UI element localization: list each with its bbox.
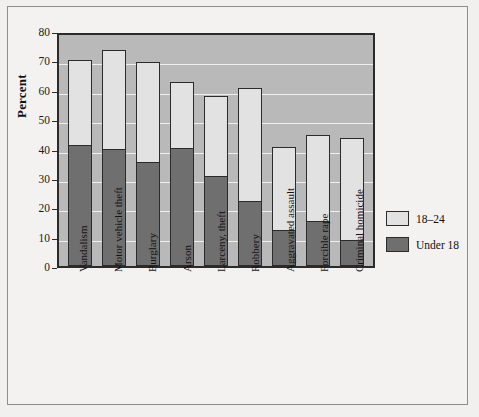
- y-tick-label: 20: [39, 204, 51, 216]
- legend-swatch: [386, 237, 409, 252]
- x-axis-label: Motor vehicle theft: [113, 187, 124, 272]
- legend-item[interactable]: Under 18: [386, 237, 472, 252]
- x-axis-label: Robbery: [250, 234, 261, 272]
- legend-swatch: [386, 211, 409, 226]
- y-tick-mark: [52, 268, 57, 269]
- x-label-slot: Forcible rape: [302, 270, 336, 382]
- x-label-slot: Burglary: [130, 270, 164, 382]
- x-axis-label: Criminal homicide: [354, 189, 365, 272]
- bar-slot: [233, 35, 267, 266]
- x-axis-label: Forcible rape: [319, 214, 330, 272]
- y-tick-label: 80: [39, 27, 51, 39]
- y-tick-label: 0: [44, 262, 50, 274]
- x-label-slot: Vandalism: [61, 270, 95, 382]
- legend-label: Under 18: [416, 239, 459, 251]
- y-tick-label: 30: [39, 174, 51, 186]
- x-axis-label: Aggravated assault: [285, 188, 296, 272]
- x-axis-label: Vandalism: [78, 226, 89, 272]
- x-label-slot: Arson: [164, 270, 198, 382]
- x-label-slot: Robbery: [233, 270, 267, 382]
- x-axis-label: Larceny, theft: [216, 211, 227, 272]
- figure: Percent 01020304050607080 VandalismMotor…: [0, 0, 479, 417]
- y-tick-label: 40: [39, 145, 51, 157]
- x-label-slot: Criminal homicide: [337, 270, 371, 382]
- y-tick-label: 60: [39, 86, 51, 98]
- legend-item[interactable]: 18–24: [386, 211, 472, 226]
- bar-slot: [165, 35, 199, 266]
- bar-arson[interactable]: [170, 82, 194, 266]
- legend: 18–24Under 18: [386, 211, 472, 263]
- bar-slot: [131, 35, 165, 266]
- legend-label: 18–24: [416, 213, 445, 225]
- x-label-slot: Larceny, theft: [199, 270, 233, 382]
- y-axis: 01020304050607080: [20, 33, 57, 268]
- y-tick-label: 10: [39, 233, 51, 245]
- y-tick-label: 50: [39, 115, 51, 127]
- y-tick-label: 70: [39, 57, 51, 69]
- x-axis-label: Burglary: [147, 233, 158, 272]
- x-axis-labels: VandalismMotor vehicle theftBurglaryArso…: [57, 270, 375, 382]
- x-label-slot: Motor vehicle theft: [95, 270, 129, 382]
- x-axis-label: Arson: [182, 245, 193, 272]
- x-label-slot: Aggravated assault: [268, 270, 302, 382]
